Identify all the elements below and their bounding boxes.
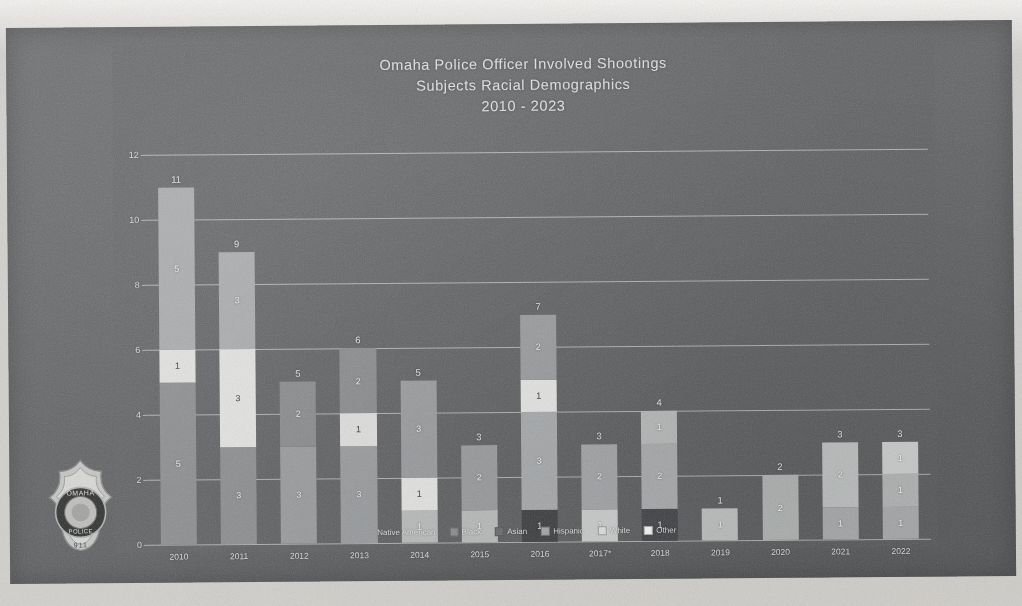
y-axis-tick-label: 6 — [135, 345, 140, 355]
x-axis-tick-label: 2019 — [702, 547, 738, 557]
bar-segment[interactable]: 3 — [400, 380, 437, 478]
x-axis-tick-label: 2014 — [402, 550, 438, 560]
x-axis-tick-label: 2018 — [642, 548, 678, 558]
legend-swatch-icon — [598, 526, 607, 535]
x-axis-tick-label: 2012 — [281, 551, 317, 561]
bar-segment[interactable]: 1 — [822, 507, 858, 540]
projected-slide: Omaha Police Officer Involved Shootings … — [6, 20, 1016, 584]
x-axis-tick-label: 2017* — [582, 548, 618, 558]
legend-item: Hispanic — [541, 526, 584, 535]
bar-total-label: 5 — [400, 366, 436, 377]
legend-label: Other — [656, 526, 676, 535]
bar-total-label: 7 — [520, 300, 556, 311]
chart-panel: Omaha Police Officer Involved Shootings … — [112, 39, 938, 553]
y-axis-tick-label: 4 — [136, 410, 141, 420]
legend-swatch-icon — [541, 527, 550, 536]
bar-total-label: 4 — [641, 397, 677, 408]
bar-segment[interactable]: 1 — [582, 509, 618, 542]
y-axis-tick-label: 8 — [135, 280, 140, 290]
legend-label: Asian — [507, 527, 527, 536]
bar-segment[interactable]: 2 — [280, 381, 317, 446]
bar-segment[interactable]: 1 — [882, 474, 918, 507]
omaha-police-badge-icon: OMAHA POLICE 911 — [37, 457, 124, 554]
legend-item: White — [598, 526, 631, 535]
x-axis-tick-label: 2021 — [823, 546, 859, 556]
bar-column[interactable]: 12142018 — [641, 411, 678, 541]
bar-total-label: 3 — [822, 428, 858, 439]
y-axis-tick-label: 0 — [137, 540, 142, 550]
bar-segment[interactable]: 2 — [581, 444, 618, 509]
svg-text:OMAHA: OMAHA — [66, 489, 94, 496]
y-axis-tick-label: 2 — [136, 475, 141, 485]
bar-segment[interactable]: 2 — [520, 314, 557, 379]
x-axis-tick-label: 2010 — [161, 551, 197, 561]
bar-total-label: 2 — [762, 461, 798, 472]
legend-item: Native American — [377, 528, 435, 537]
projected-slide-wrapper: Omaha Police Officer Involved Shootings … — [6, 20, 1016, 584]
bar-segment[interactable]: 1 — [401, 478, 437, 511]
bar-total-label: 5 — [280, 367, 316, 378]
bar-segment[interactable]: 2 — [822, 442, 859, 507]
svg-text:911: 911 — [74, 541, 88, 548]
bar-segment[interactable]: 1 — [641, 411, 677, 444]
plot-area: 024681012 515112010333920113252012312620… — [146, 149, 931, 545]
bar-column[interactable]: 515112010 — [158, 187, 197, 545]
bar-total-label: 1 — [702, 494, 738, 505]
bar-column[interactable]: 33392011 — [219, 252, 257, 545]
bar-segment[interactable]: 1 — [340, 413, 376, 446]
bar-column[interactable]: 131272016 — [520, 314, 558, 542]
bar-segment[interactable]: 1 — [521, 379, 557, 412]
legend-label: White — [610, 526, 631, 535]
chart-title: Omaha Police Officer Involved Shootings … — [112, 51, 934, 121]
x-axis-tick-label: 2020 — [762, 547, 798, 557]
x-axis-tick-label: 2016 — [522, 549, 558, 559]
bar-segment[interactable]: 1 — [401, 510, 437, 543]
legend-item: Other — [644, 526, 676, 535]
bar-total-label: 3 — [461, 431, 497, 442]
bar-segment[interactable]: 3 — [521, 412, 558, 510]
bar-segment[interactable]: 2 — [461, 445, 498, 510]
bar-group: 5151120103339201132520123126201311352014… — [146, 149, 931, 545]
bar-segment[interactable]: 1 — [522, 509, 558, 542]
bar-segment[interactable]: 3 — [219, 252, 256, 350]
x-axis-tick-label: 2013 — [341, 550, 377, 560]
legend-swatch-icon — [450, 527, 459, 536]
bar-segment[interactable]: 5 — [160, 382, 197, 545]
bar-segment[interactable]: 1 — [461, 510, 497, 543]
x-axis-tick-label: 2015 — [462, 549, 498, 559]
x-axis-tick-label: 2022 — [883, 546, 919, 556]
bar-total-label: 6 — [340, 334, 376, 345]
legend-item: Asian — [495, 527, 527, 536]
bar-segment[interactable]: 1 — [702, 508, 738, 541]
bar-total-label: 11 — [158, 173, 194, 184]
bar-segment[interactable]: 1 — [642, 508, 678, 541]
bar-column[interactable]: 31262013 — [340, 348, 378, 543]
bar-column[interactable]: 11352014 — [400, 380, 437, 543]
bar-segment[interactable]: 1 — [159, 349, 195, 382]
y-axis-tick-label: 10 — [129, 215, 139, 225]
svg-text:POLICE: POLICE — [69, 528, 93, 534]
x-axis-tick-label: 2011 — [221, 551, 257, 561]
bar-total-label: 9 — [219, 238, 255, 249]
legend-label: Native American — [377, 528, 435, 537]
legend-swatch-icon — [495, 527, 504, 536]
legend-item: Black — [450, 527, 482, 536]
bar-column[interactable]: 3252012 — [280, 381, 317, 544]
bar-segment[interactable]: 1 — [882, 441, 918, 474]
bar-total-label: 3 — [882, 427, 918, 438]
legend-label: Black — [462, 527, 482, 536]
bar-segment[interactable]: 2 — [641, 443, 678, 508]
legend-swatch-icon — [644, 526, 653, 535]
bar-segment[interactable]: 2 — [340, 348, 377, 413]
bar-column[interactable]: 112019 — [702, 508, 738, 541]
bar-segment[interactable]: 1 — [882, 506, 918, 539]
bar-segment[interactable]: 5 — [158, 187, 195, 350]
legend-label: Hispanic — [553, 526, 584, 535]
bar-total-label: 3 — [581, 430, 617, 441]
y-axis-tick-label: 12 — [129, 150, 139, 160]
y-axis-tick — [144, 545, 149, 546]
bar-segment[interactable]: 3 — [220, 349, 257, 447]
